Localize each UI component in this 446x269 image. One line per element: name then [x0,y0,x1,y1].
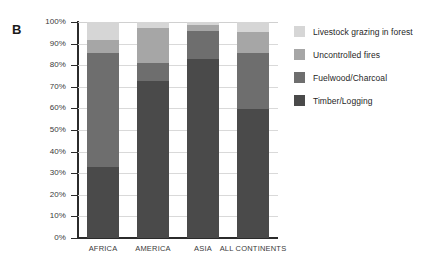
bar-segment-livestock-grazing-in-forest[interactable] [237,22,269,32]
legend-item[interactable]: Fuelwood/Charcoal [294,67,444,88]
y-axis-tick-label: 100% [20,17,66,26]
bar-segment-uncontrolled-fires[interactable] [237,32,269,54]
y-axis-tick [71,130,78,131]
y-axis-tick-label: 30% [20,168,66,177]
y-axis-tick [71,44,78,45]
y-axis-tick [71,216,78,217]
y-axis-tick [71,152,78,153]
y-axis-tick-label: 0% [20,233,66,242]
y-axis-tick [71,108,78,109]
bar-segment-fuelwood-charcoal[interactable] [187,31,219,59]
bar-segment-timber-logging[interactable] [237,109,269,238]
y-axis-tick-label: 50% [20,125,66,134]
stacked-bar-chart-figure: B 100%90%80%70%60%50%40%30%20%10%0% AFRI… [0,0,446,269]
legend-swatch-icon [294,26,305,37]
bar-segment-timber-logging[interactable] [137,81,169,238]
bar-segment-fuelwood-charcoal[interactable] [137,63,169,81]
x-axis-tick-label: AFRICA [89,244,118,253]
bar-segment-fuelwood-charcoal[interactable] [237,53,269,109]
legend-item[interactable]: Uncontrolled fires [294,44,444,65]
legend-item[interactable]: Timber/Logging [294,90,444,111]
y-axis-tick [71,22,78,23]
bar-segment-uncontrolled-fires[interactable] [87,40,119,53]
y-axis-tick-label: 90% [20,39,66,48]
y-axis-tick-label: 60% [20,103,66,112]
x-axis-tick-label: AMERICA [135,244,171,253]
y-axis-tick [71,87,78,88]
bar-asia[interactable] [187,22,219,238]
y-axis-tick-label: 20% [20,190,66,199]
legend-swatch-icon [294,95,305,106]
legend-item[interactable]: Livestock grazing in forest [294,21,444,42]
bar-segment-uncontrolled-fires[interactable] [137,28,169,63]
bar-segment-fuelwood-charcoal[interactable] [87,53,119,166]
bar-africa[interactable] [87,22,119,238]
bar-all-continents[interactable] [237,22,269,238]
legend-item-label: Timber/Logging [313,96,372,106]
bar-segment-timber-logging[interactable] [87,167,119,238]
plot-area [78,22,278,238]
bar-segment-timber-logging[interactable] [187,59,219,238]
legend-item-label: Livestock grazing in forest [313,27,413,37]
y-axis-tick-label: 70% [20,82,66,91]
x-axis-tick-label: ALL CONTINENTS [220,244,287,253]
y-axis-tick-label: 80% [20,60,66,69]
chart-legend: Livestock grazing in forestUncontrolled … [294,21,444,113]
y-axis-tick [71,238,78,239]
y-axis-tick [71,195,78,196]
legend-swatch-icon [294,72,305,83]
legend-swatch-icon [294,49,305,60]
legend-item-label: Uncontrolled fires [313,50,380,60]
bar-segment-livestock-grazing-in-forest[interactable] [87,22,119,40]
y-axis-tick [71,173,78,174]
x-axis-tick-label: ASIA [194,244,212,253]
y-axis-tick-label: 40% [20,147,66,156]
legend-item-label: Fuelwood/Charcoal [313,73,387,83]
y-axis-tick [71,65,78,66]
bar-america[interactable] [137,22,169,238]
y-axis-tick-label: 10% [20,211,66,220]
